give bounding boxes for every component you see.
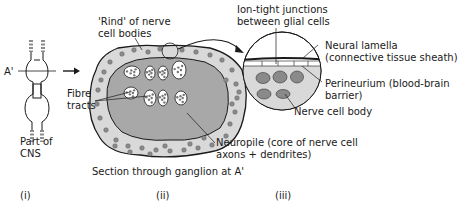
rind-cell-dot <box>208 53 213 58</box>
rind-cell-dot <box>96 88 101 93</box>
neuropile-label-line: axons + dendrites) <box>216 149 358 161</box>
rind-cell-dot <box>194 50 199 55</box>
perineurium-label-line: barrier) <box>325 90 450 102</box>
rind-cell-dot <box>102 70 107 75</box>
rind-cell-dot <box>120 52 125 57</box>
panel-numeral-ii: (ii) <box>156 190 169 202</box>
neuropile-label: Neuropile (core of nerve cell axons + de… <box>216 137 358 161</box>
rind-cell-dot <box>114 138 119 143</box>
junctions-label-line: Ion-tight junctions <box>237 4 330 16</box>
rind-cell-dot <box>233 110 238 115</box>
rind-cell-dot <box>210 143 215 148</box>
fibre-bundle <box>124 66 140 78</box>
rind-cell-dot <box>113 144 118 149</box>
rind-cell-dot <box>140 146 145 151</box>
cns-segment <box>25 40 49 142</box>
rind-cell-dot <box>163 144 168 149</box>
rind-cell-dot <box>108 60 113 65</box>
fibre-bundle <box>175 91 187 105</box>
rind-cell-dot <box>182 148 187 153</box>
panel-numeral-i: (i) <box>20 190 31 202</box>
cns-caption: Part of CNS <box>20 136 53 160</box>
rind-cell-dot <box>148 152 153 157</box>
neuropile-label-line: Neuropile (core of nerve cell <box>216 137 358 149</box>
rind-cell-dot <box>230 68 235 73</box>
fibre-bundle <box>158 90 168 106</box>
lamella-label-line: (connective tissue sheath) <box>325 52 458 64</box>
rind-cell-dot <box>154 148 159 153</box>
junctions-label-line: between glial cells <box>237 16 330 28</box>
neural-lamella-label: Neural lamella (connective tissue sheath… <box>325 40 458 64</box>
fibre-bundle <box>145 66 155 80</box>
rind-cell-dot <box>235 96 240 101</box>
rind-cell-dot <box>128 150 133 155</box>
arrow-to-section <box>63 68 80 75</box>
fibre-bundle <box>172 61 186 79</box>
rind-label: 'Rind' of nerve cell bodies <box>98 16 171 40</box>
rind-cell-dot <box>168 149 173 154</box>
rind-cell-dot <box>237 90 242 95</box>
fibre-label-line: tracts <box>67 100 96 112</box>
fibre-tracts-label: Fibre tracts <box>67 88 96 112</box>
rind-cell-dot <box>104 128 109 133</box>
rind-cell-dot <box>196 146 201 151</box>
cns-caption-line: Part of <box>20 136 53 148</box>
rind-cell-dot <box>228 122 233 127</box>
magnified-view <box>240 32 330 116</box>
fibre-bundle <box>144 90 156 106</box>
panel-numeral-iii: (iii) <box>275 190 291 202</box>
rind-cell-dot <box>146 50 151 55</box>
section-caption: Section through ganglion at A' <box>92 166 244 178</box>
rind-cell-dot <box>234 82 239 87</box>
rind-cell-dot <box>224 78 229 83</box>
rind-label-line: cell bodies <box>98 28 171 40</box>
rind-cell-dot <box>132 48 137 53</box>
perineurium-label: Perineurium (blood-brain barrier) <box>325 78 450 102</box>
nerve-cell-body-label: Nerve cell body <box>294 106 372 118</box>
rind-cell-dot <box>230 102 235 107</box>
rind-cell-dot <box>98 116 103 121</box>
section-marker-a: A' <box>4 66 14 78</box>
rind-cell-dot <box>126 144 131 149</box>
perineurium-label-line: Perineurium (blood-brain <box>325 78 450 90</box>
rind-cell-dot <box>202 136 207 141</box>
lamella-label-line: Neural lamella <box>325 40 458 52</box>
rind-cell-dot <box>188 142 193 147</box>
junctions-label: Ion-tight junctions between glial cells <box>237 4 330 28</box>
rind-cell-dot <box>220 58 225 63</box>
rind-cell-dot <box>99 78 104 83</box>
rind-label-line: 'Rind' of nerve <box>98 16 171 28</box>
fibre-label-line: Fibre <box>67 88 96 100</box>
cns-caption-line: CNS <box>20 148 53 160</box>
fibre-bundle <box>158 66 168 80</box>
